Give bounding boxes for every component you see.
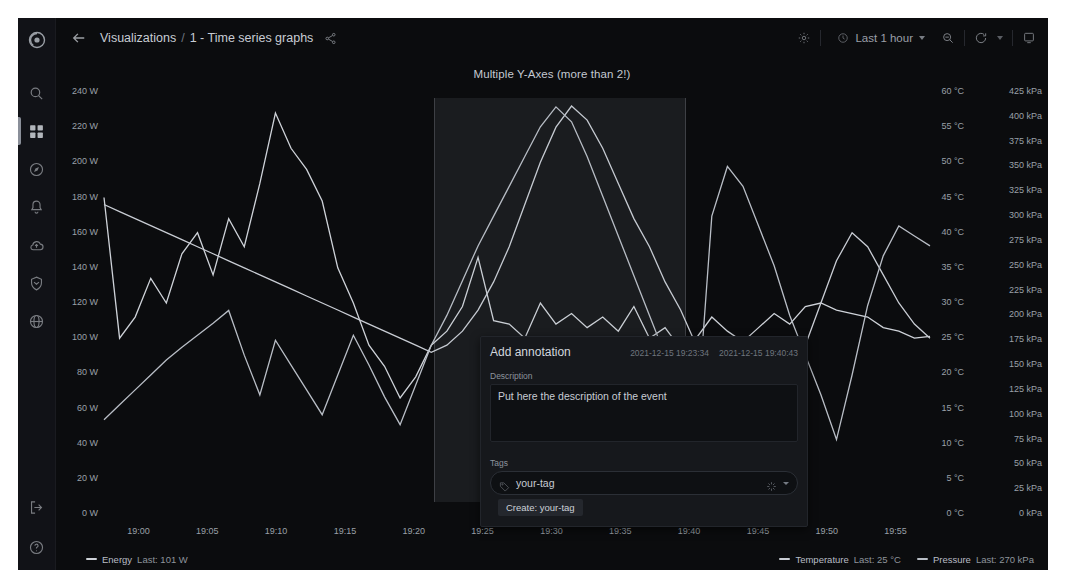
legend-series-value: Last: 270 kPa [976, 554, 1034, 565]
arrow-left-icon [70, 29, 88, 47]
sidebar-nav [18, 18, 56, 570]
legend-series-value: Last: 25 °C [854, 554, 901, 565]
annotation-time-from: 2021-12-15 19:23:34 [630, 348, 709, 358]
panel-settings-button[interactable] [797, 31, 811, 45]
breadcrumb: Visualizations / 1 - Time series graphs [100, 31, 337, 45]
x-axis-tick-label: 19:35 [604, 526, 636, 536]
y-axis-tick-label: 55 °C [56, 121, 964, 131]
legend-color-swatch [917, 558, 928, 561]
annotation-dialog-title: Add annotation [490, 345, 571, 359]
x-axis-tick-label: 19:30 [535, 526, 567, 536]
x-axis-tick-label: 19:10 [260, 526, 292, 536]
sidebar-item-cloud[interactable] [18, 234, 55, 256]
legend-group-right: TemperatureLast: 25 °CPressureLast: 270 … [779, 554, 1034, 565]
sign-out-icon [28, 499, 45, 516]
y-axis-tick-label: 225 kPa [56, 285, 1042, 295]
y-axis-tick-label: 425 kPa [56, 86, 1042, 96]
clock-icon [837, 32, 849, 44]
nav-divider [964, 30, 965, 46]
y-axis-tick-label: 250 kPa [56, 260, 1042, 270]
compass-icon [28, 161, 45, 178]
top-navigation-bar: Visualizations / 1 - Time series graphs [56, 18, 1048, 58]
sidebar-item-search[interactable] [18, 82, 55, 104]
y-axis-tick-label: 275 kPa [56, 235, 1042, 245]
y-axis-tick-label: 350 kPa [56, 160, 1042, 170]
bell-icon [28, 199, 45, 216]
grafana-logo-icon[interactable] [25, 28, 49, 52]
x-axis-tick-label: 19:00 [122, 526, 154, 536]
nav-divider [820, 30, 821, 46]
x-axis-tick-label: 19:15 [329, 526, 361, 536]
legend-color-swatch [779, 558, 790, 561]
y-axis-tick-label: 300 kPa [56, 210, 1042, 220]
legend-item[interactable]: EnergyLast: 101 W [86, 554, 188, 565]
x-axis-tick-label: 19:05 [191, 526, 223, 536]
dashboards-grid-icon [28, 123, 45, 140]
tag-icon [499, 478, 510, 489]
description-label: Description [490, 371, 798, 381]
gear-icon [797, 31, 811, 45]
tags-input[interactable]: your-tag [490, 471, 798, 495]
add-annotation-dialog[interactable]: Add annotation 2021-12-15 19:23:34 2021-… [480, 336, 808, 527]
time-range-picker[interactable]: Last 1 hour [830, 29, 932, 47]
share-icon[interactable] [324, 32, 337, 45]
nav-divider [1012, 30, 1013, 46]
panel-title: Multiple Y-Axes (more than 2!) [60, 68, 1044, 80]
sidebar-item-alerting[interactable] [18, 196, 55, 218]
x-axis-tick-label: 19:40 [673, 526, 705, 536]
legend-series-name: Temperature [795, 554, 848, 565]
x-axis-tick-label: 19:55 [880, 526, 912, 536]
x-axis-tick-label: 19:25 [467, 526, 499, 536]
legend-series-value: Last: 101 W [137, 554, 188, 565]
chevron-down-icon [997, 36, 1003, 40]
search-icon [28, 85, 45, 102]
top-nav-actions: Last 1 hour [797, 29, 1036, 47]
annotation-time-range: 2021-12-15 19:23:34 2021-12-15 19:40:43 [630, 348, 798, 358]
legend-series-name: Energy [102, 554, 132, 565]
legend-color-swatch [86, 558, 97, 561]
tv-panel-icon [1022, 31, 1036, 45]
x-axis-tick-label: 19:50 [811, 526, 843, 536]
y-axis-tick-label: 325 kPa [56, 185, 1042, 195]
x-axis-tick-label: 19:45 [742, 526, 774, 536]
y-axis-tick-label: 400 kPa [56, 111, 1042, 121]
zoom-out-time-range-button[interactable] [941, 31, 955, 45]
breadcrumb-separator: / [181, 31, 184, 45]
sidebar-item-sign-out[interactable] [28, 496, 45, 518]
y-axis-tick-label: 200 kPa [56, 309, 1042, 319]
x-axis-tick-label: 19:20 [398, 526, 430, 536]
breadcrumb-root[interactable]: Visualizations [100, 31, 176, 45]
globe-icon [28, 313, 45, 330]
cloud-icon [28, 237, 45, 254]
tv-mode-button[interactable] [1022, 31, 1036, 45]
time-range-label: Last 1 hour [855, 32, 913, 44]
description-input[interactable] [490, 384, 798, 442]
grafana-app: Visualizations / 1 - Time series graphs [18, 18, 1048, 570]
sidebar-item-shield[interactable] [18, 272, 55, 294]
annotation-header: Add annotation 2021-12-15 19:23:34 2021-… [490, 345, 798, 359]
sidebar-item-explore[interactable] [18, 158, 55, 180]
tags-value: your-tag [516, 477, 760, 489]
create-tag-option[interactable]: Create: your-tag [498, 499, 583, 516]
panel-legend: EnergyLast: 101 W TemperatureLast: 25 °C… [56, 550, 1048, 568]
tags-label: Tags [490, 458, 798, 468]
breadcrumb-current[interactable]: 1 - Time series graphs [190, 31, 314, 45]
refresh-icon [974, 31, 988, 45]
help-circle-icon [28, 539, 45, 556]
sidebar-item-server-admin[interactable] [18, 310, 55, 332]
back-button[interactable] [70, 29, 88, 47]
refresh-interval-dropdown[interactable] [997, 36, 1003, 40]
legend-group-left: EnergyLast: 101 W [86, 554, 188, 565]
refresh-dashboard-button[interactable] [974, 31, 988, 45]
sidebar-item-dashboards[interactable] [18, 120, 55, 142]
sidebar-item-help[interactable] [28, 536, 45, 558]
loading-spinner-icon [766, 478, 777, 489]
zoom-out-icon [941, 31, 955, 45]
legend-series-name: Pressure [933, 554, 971, 565]
annotation-time-to: 2021-12-15 19:40:43 [719, 348, 798, 358]
shield-icon [28, 275, 45, 292]
legend-item[interactable]: TemperatureLast: 25 °C [779, 554, 900, 565]
chevron-down-icon[interactable] [783, 482, 789, 485]
y-axis-tick-label: 30 °C [56, 297, 964, 307]
legend-item[interactable]: PressureLast: 270 kPa [917, 554, 1034, 565]
